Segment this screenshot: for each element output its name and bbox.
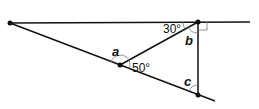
angle-b-label: b bbox=[185, 33, 193, 48]
angle-50-arc bbox=[129, 60, 130, 69]
angle-50-label: 50° bbox=[132, 61, 150, 75]
angle-a-label: a bbox=[112, 44, 119, 59]
angle-30-arc bbox=[183, 22, 185, 29]
point-middle bbox=[118, 63, 123, 68]
angle-30-label: 30° bbox=[163, 22, 181, 36]
point-bottom bbox=[196, 93, 201, 98]
point-left bbox=[8, 21, 13, 26]
horizontal-line bbox=[10, 22, 250, 23]
geometry-diagram: 30° b a 50° c bbox=[0, 0, 259, 109]
point-top-right bbox=[196, 20, 201, 25]
angle-c-label: c bbox=[184, 74, 192, 89]
